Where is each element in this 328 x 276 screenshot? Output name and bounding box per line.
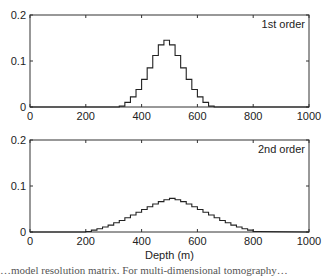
x-tick-label: 800: [244, 110, 262, 122]
x-tick-label: 600: [188, 110, 206, 122]
x-axis-label: Depth (m): [145, 249, 194, 261]
panel-1st-order: 0200400600800100000.10.21st order: [11, 9, 322, 122]
x-tick-label: 1000: [297, 235, 321, 247]
x-tick-label: 800: [244, 235, 262, 247]
y-tick-label: 0.2: [11, 134, 26, 146]
caption-fragment: …model resolution matrix. For multi-dime…: [0, 264, 328, 276]
x-tick-label: 0: [27, 110, 33, 122]
x-tick-label: 0: [27, 235, 33, 247]
y-tick-label: 0.2: [11, 9, 26, 21]
y-tick-label: 0.1: [11, 180, 26, 192]
panel-2nd-order: 0200400600800100000.10.22nd orderDepth (…: [11, 134, 322, 261]
x-tick-label: 600: [188, 235, 206, 247]
step-series: [30, 198, 309, 232]
x-tick-label: 400: [132, 110, 150, 122]
y-tick-label: 0: [20, 226, 26, 238]
order-annotation: 2nd order: [258, 143, 305, 155]
x-tick-label: 200: [77, 235, 95, 247]
y-tick-label: 0: [20, 101, 26, 113]
x-tick-label: 200: [77, 110, 95, 122]
step-series: [30, 40, 309, 107]
y-tick-label: 0.1: [11, 55, 26, 67]
x-tick-label: 1000: [297, 110, 321, 122]
x-tick-label: 400: [132, 235, 150, 247]
order-annotation: 1st order: [262, 18, 306, 30]
